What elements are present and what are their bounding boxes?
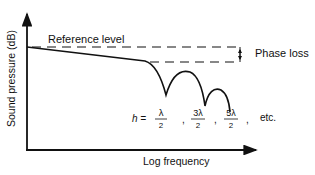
svg-text:3λ: 3λ	[193, 108, 203, 118]
svg-text:5λ: 5λ	[226, 108, 236, 118]
svg-text:λ: λ	[159, 107, 164, 118]
svg-text:2: 2	[196, 121, 201, 130]
phase-loss-arrow-icon	[238, 49, 242, 60]
formula-variable: h =	[132, 113, 146, 124]
x-axis-label: Log frequency	[143, 155, 210, 167]
formula: h = λ 2 , 3λ 2 , 5λ 2 , etc.	[132, 107, 276, 130]
formula-term-2: 3λ 2	[191, 108, 205, 130]
frequency-response-diagram: Reference level Phase loss Sound pressur…	[0, 0, 315, 175]
phase-loss-label: Phase loss	[255, 47, 309, 59]
formula-separator: ,	[246, 114, 249, 125]
reference-level-label: Reference level	[48, 33, 124, 45]
response-curve	[27, 47, 230, 112]
formula-separator: ,	[214, 114, 217, 125]
y-axis-label: Sound pressure (dB)	[5, 30, 17, 127]
formula-suffix: etc.	[260, 112, 276, 123]
svg-text:2: 2	[229, 121, 234, 130]
formula-separator: ,	[182, 114, 185, 125]
svg-text:2: 2	[159, 121, 164, 130]
formula-term-3: 5λ 2	[224, 108, 238, 130]
formula-term-1: λ 2	[155, 107, 167, 130]
